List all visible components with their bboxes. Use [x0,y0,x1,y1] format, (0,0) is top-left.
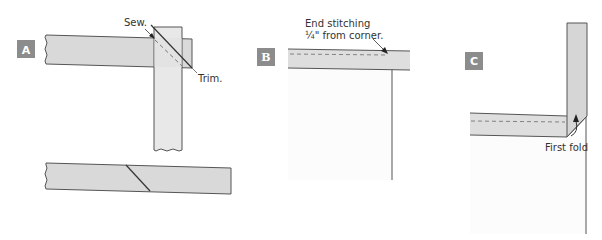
panel-b: B End stitching ¼" from corner. [257,18,410,180]
badge-a: A [17,40,35,58]
first-fold-label: First fold [545,142,588,153]
badge-a-text: A [22,44,31,57]
badge-b-text: B [261,51,270,64]
quilt-top [288,68,392,180]
binding-strip [288,49,410,70]
trim-label: Trim. [197,73,222,84]
end-stitching-label-line1: End stitching [305,18,370,29]
sew-label: Sew. [124,17,147,28]
end-stitching-label-line2: ¼" from corner. [305,30,383,41]
panel-a: A Sew. Trim. [17,17,231,194]
panel-c: C First fold [465,23,588,234]
horizontal-binding [470,113,567,137]
badge-c: C [465,52,483,70]
binding-diagram: A Sew. Trim. B [0,0,602,240]
badge-b: B [257,48,275,66]
badge-c-text: C [470,55,478,68]
